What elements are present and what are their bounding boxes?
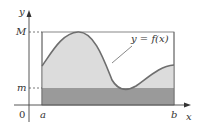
- x-axis-label: x: [186, 111, 192, 122]
- y-axis-label: y: [18, 6, 25, 17]
- lower-rectangle: [42, 88, 174, 105]
- y-axis-arrow-icon: [27, 10, 32, 17]
- origin-label: 0: [19, 109, 25, 120]
- upper-bound-label-M: M: [15, 26, 27, 37]
- interval-start-label-a: a: [40, 109, 46, 120]
- x-axis-arrow-icon: [184, 103, 191, 108]
- interval-end-label-b: b: [171, 109, 177, 120]
- curve-label: y = f(x): [130, 33, 169, 44]
- lower-bound-label-m: m: [17, 82, 26, 93]
- diagram-canvas: y x 0 M m a b y = f(x): [0, 0, 202, 132]
